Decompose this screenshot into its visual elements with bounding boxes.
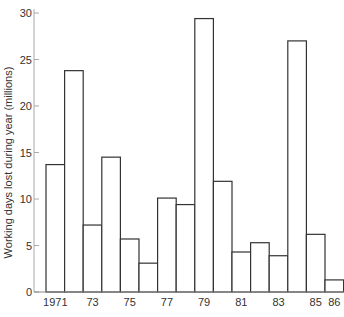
bar-1985 xyxy=(306,234,325,292)
bar-1978 xyxy=(176,205,195,292)
y-tick-label: 15 xyxy=(20,147,32,159)
bar-1979 xyxy=(195,19,214,292)
x-tick-label: 75 xyxy=(124,296,136,308)
bar-1983 xyxy=(269,256,288,292)
x-tick-label: 81 xyxy=(235,296,247,308)
bar-1981 xyxy=(232,252,251,292)
bar-1973 xyxy=(83,225,102,292)
bar-1971 xyxy=(46,165,65,292)
bar-chart: 051015202530 19717375777981838586 Workin… xyxy=(0,0,344,317)
bar-1977 xyxy=(158,198,177,292)
bar-1982 xyxy=(251,243,270,292)
bar-1984 xyxy=(288,41,307,292)
y-tick-label: 0 xyxy=(26,286,32,298)
x-tick-label: 73 xyxy=(86,296,98,308)
y-axis: 051015202530 xyxy=(20,7,39,298)
x-tick-label: 85 xyxy=(310,296,322,308)
y-tick-label: 10 xyxy=(20,193,32,205)
y-axis-title: Working days lost during year (millions) xyxy=(2,67,14,259)
x-tick-label: 86 xyxy=(328,296,340,308)
x-tick-label: 79 xyxy=(198,296,210,308)
y-tick-label: 30 xyxy=(20,7,32,19)
y-tick-label: 20 xyxy=(20,100,32,112)
x-tick-label: 83 xyxy=(272,296,284,308)
bar-1972 xyxy=(65,71,84,292)
bar-1986 xyxy=(325,280,344,292)
bar-1974 xyxy=(102,157,121,292)
bar-1975 xyxy=(120,239,139,292)
bar-1976 xyxy=(139,263,158,292)
bars xyxy=(46,19,344,292)
y-tick-label: 25 xyxy=(20,54,32,66)
x-axis: 19717375777981838586 xyxy=(34,292,344,308)
x-tick-label: 1971 xyxy=(43,296,67,308)
y-tick-label: 5 xyxy=(26,240,32,252)
x-tick-label: 77 xyxy=(161,296,173,308)
bar-1980 xyxy=(213,181,232,292)
